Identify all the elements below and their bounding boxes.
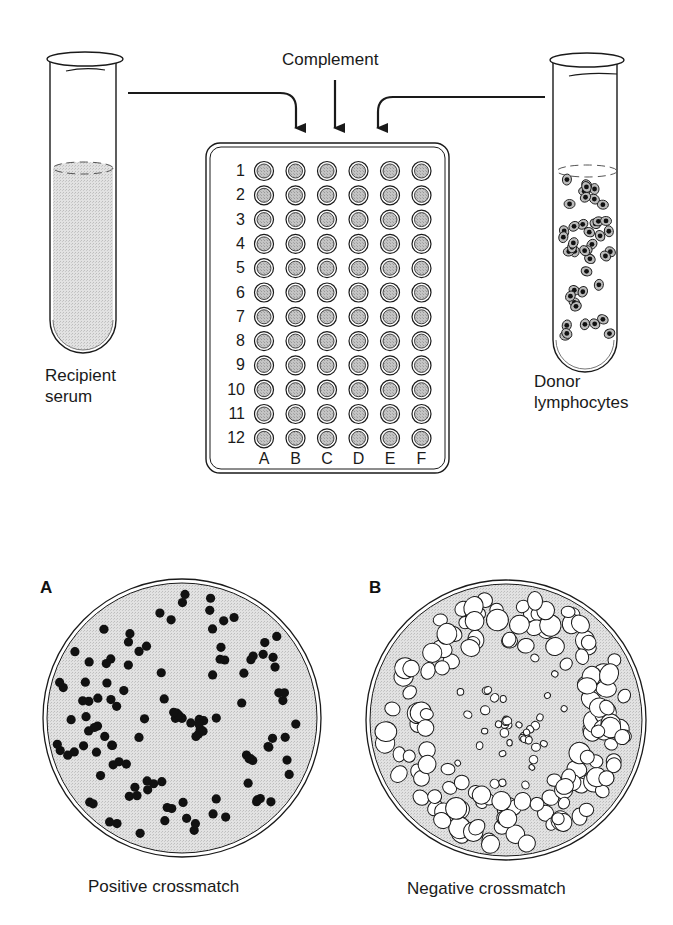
plate-row-label: 12 bbox=[219, 429, 245, 447]
plate-column-label: E bbox=[380, 450, 400, 468]
flow-arrows bbox=[128, 80, 545, 128]
plate-row-label: 10 bbox=[219, 381, 245, 399]
plate-column-label: C bbox=[317, 450, 337, 468]
donor-lymphocytes-tube bbox=[550, 53, 624, 372]
plate-row-label: 5 bbox=[219, 259, 245, 277]
complement-label: Complement bbox=[282, 50, 378, 70]
plate-row-label: 11 bbox=[219, 405, 245, 423]
panel-a-letter: A bbox=[40, 578, 52, 598]
plate-column-label: A bbox=[254, 450, 274, 468]
recipient-serum-label-line1: Recipient bbox=[45, 366, 116, 386]
plate-row-label: 2 bbox=[219, 186, 245, 204]
panel-b-letter: B bbox=[369, 578, 381, 598]
negative-crossmatch-caption: Negative crossmatch bbox=[407, 879, 566, 899]
plate-column-label: B bbox=[286, 450, 306, 468]
plate-column-label: D bbox=[349, 450, 369, 468]
donor-lymphocytes-label-line1: Donor bbox=[534, 372, 580, 392]
plate-row-label: 4 bbox=[219, 235, 245, 253]
dish-negative-crossmatch bbox=[366, 580, 646, 860]
plate-row-label: 6 bbox=[219, 284, 245, 302]
plate-row-label: 1 bbox=[219, 162, 245, 180]
positive-crossmatch-caption: Positive crossmatch bbox=[88, 877, 239, 897]
plate-row-label: 8 bbox=[219, 332, 245, 350]
donor-lymphocytes-label-line2: lymphocytes bbox=[534, 393, 628, 413]
recipient-serum-label-line2: serum bbox=[45, 387, 92, 407]
plate-row-label: 9 bbox=[219, 356, 245, 374]
plate-row-label: 3 bbox=[219, 211, 245, 229]
plate-column-label: F bbox=[412, 450, 432, 468]
plate-row-label: 7 bbox=[219, 308, 245, 326]
dish-positive-crossmatch bbox=[43, 579, 321, 857]
recipient-serum-tube bbox=[47, 52, 123, 353]
